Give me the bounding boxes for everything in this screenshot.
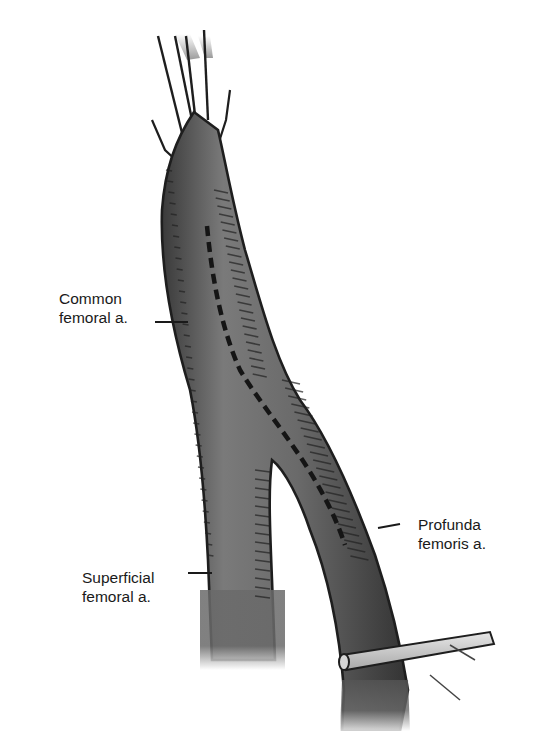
label-common-line2: femoral a. [59, 308, 128, 327]
hatch-stroke [191, 401, 197, 402]
hatch-stroke [173, 236, 179, 237]
hatch-stroke [200, 489, 206, 490]
femoral-artery-illustration [0, 0, 533, 731]
hatch-stroke [177, 269, 183, 270]
hatch-stroke [185, 346, 191, 347]
hatch-stroke [187, 368, 193, 369]
hatch-stroke [198, 467, 204, 468]
hatch-stroke [199, 478, 205, 479]
hatch-stroke [202, 500, 208, 501]
hatch-stroke [186, 357, 192, 358]
hatch-stroke [178, 280, 184, 281]
label-profunda-femoris-artery: Profunda femoris a. [418, 515, 486, 553]
hatch-stroke [196, 445, 202, 446]
hatch-stroke [174, 247, 180, 248]
hatch-stroke [189, 379, 195, 380]
hatch-stroke [170, 203, 176, 204]
hatch-stroke [206, 544, 212, 545]
hatch-stroke [204, 522, 210, 523]
label-superficial-femoral-artery: Superficial femoral a. [82, 568, 154, 606]
label-superficial-line2: femoral a. [82, 587, 154, 606]
leader-profunda [378, 524, 400, 528]
hatch-stroke [168, 192, 174, 193]
hatch-stroke [194, 434, 200, 435]
artery-body [162, 112, 410, 731]
hatch-stroke [197, 456, 203, 457]
hatch-stroke [171, 214, 177, 215]
label-common-femoral-artery: Common femoral a. [59, 289, 128, 327]
hatch-stroke [190, 390, 196, 391]
hatch-stroke [166, 170, 172, 171]
hatch-stroke [181, 313, 187, 314]
hatch-stroke [203, 511, 209, 512]
hatch-stroke [192, 412, 198, 413]
hatch-stroke [184, 335, 190, 336]
hatch-stroke [175, 258, 181, 259]
hatch-stroke [205, 533, 211, 534]
hatch-stroke [193, 423, 199, 424]
hatch-stroke [180, 302, 186, 303]
hatch-stroke [179, 291, 185, 292]
hatch-stroke [172, 225, 178, 226]
hatch-stroke [207, 555, 213, 556]
label-profunda-line1: Profunda [418, 515, 486, 534]
hatch-stroke [183, 324, 189, 325]
hatch-stroke [167, 181, 173, 182]
label-profunda-line2: femoris a. [418, 534, 486, 553]
label-common-line1: Common [59, 289, 128, 308]
label-superficial-line1: Superficial [82, 568, 154, 587]
